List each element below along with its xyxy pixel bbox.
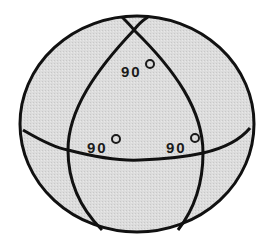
angle-value: 90 [121, 63, 142, 80]
angle-value: 90 [166, 139, 187, 156]
degree-symbol-icon [145, 59, 155, 69]
angle-label-top: 90 [121, 64, 142, 79]
degree-symbol-icon [190, 133, 200, 143]
angle-label-right: 90 [166, 140, 187, 155]
degree-symbol-icon [111, 134, 121, 144]
sphere-diagram [0, 0, 269, 246]
angle-value: 90 [87, 139, 108, 156]
sphere-outline [20, 16, 254, 232]
angle-label-left: 90 [87, 140, 108, 155]
